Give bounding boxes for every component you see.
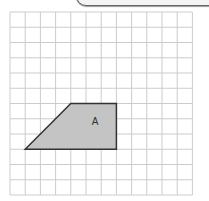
shape-a-trapezoid (25, 104, 116, 150)
shape-a-label: A (92, 116, 99, 127)
grid-diagram: A (0, 0, 209, 201)
